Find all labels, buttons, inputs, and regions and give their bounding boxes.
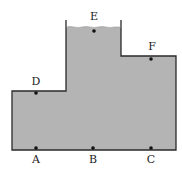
label-E: E xyxy=(90,10,98,23)
dot-D xyxy=(34,91,38,95)
label-B: B xyxy=(89,153,97,166)
label-D: D xyxy=(32,75,41,88)
dot-F xyxy=(149,57,153,61)
label-A: A xyxy=(31,153,41,166)
dot-A xyxy=(34,146,38,150)
label-F: F xyxy=(148,40,156,53)
dot-B xyxy=(91,146,95,150)
label-C: C xyxy=(147,153,155,166)
water-container-diagram: E F D A B C xyxy=(0,0,182,173)
dot-C xyxy=(149,146,153,150)
dot-E xyxy=(92,29,96,33)
water-surface xyxy=(66,27,121,28)
